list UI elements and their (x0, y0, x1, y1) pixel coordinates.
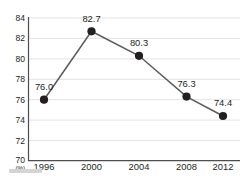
y-tick-label: 74 (15, 115, 25, 125)
data-point-marker[interactable] (40, 96, 48, 104)
data-point-label: 76.0 (35, 81, 53, 92)
data-point-marker[interactable] (135, 52, 143, 60)
data-point-marker[interactable] (219, 112, 227, 120)
y-tick-label: 78 (15, 74, 25, 84)
x-tick-label: 2000 (81, 161, 102, 172)
data-point-label: 82.7 (82, 13, 100, 24)
chart-canvas: 84 82 80 78 76 74 72 70 (%) 1996 2000 20… (0, 0, 246, 179)
x-tick-label: 2008 (176, 161, 197, 172)
data-point-labels: 76.0 82.7 80.3 76.3 74.4 (35, 13, 232, 109)
data-point-label: 76.3 (177, 78, 195, 89)
x-axis-tick-labels: 1996 2000 2004 2008 2012 (34, 161, 234, 172)
data-point-label: 74.4 (214, 97, 232, 108)
x-tick-label: 2004 (129, 161, 150, 172)
line-chart: 84 82 80 78 76 74 72 70 (%) 1996 2000 20… (0, 0, 246, 179)
footer-divider-bar (9, 169, 42, 173)
data-point-marker[interactable] (87, 27, 95, 35)
y-axis-tick-labels: 84 82 80 78 76 74 72 70 (%) (15, 13, 25, 171)
y-tick-label: 84 (15, 13, 25, 23)
y-tick-label: 80 (15, 54, 25, 64)
x-tick-label: 2012 (213, 161, 234, 172)
y-tick-label: 82 (15, 33, 25, 43)
y-tick-label: 72 (15, 136, 25, 146)
y-tick-label: 76 (15, 95, 25, 105)
data-point-marker[interactable] (182, 93, 190, 101)
data-point-label: 80.3 (130, 37, 148, 48)
